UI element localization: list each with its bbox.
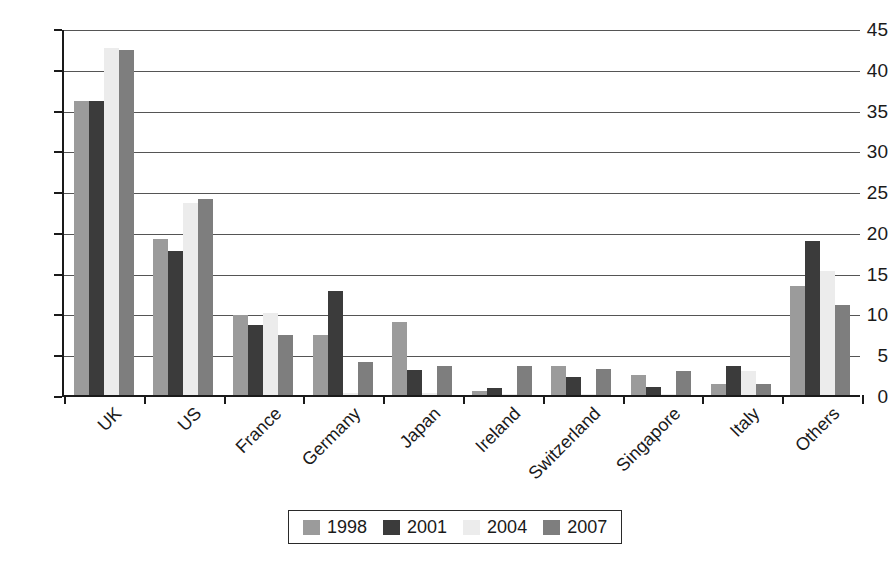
bar-group-ireland bbox=[462, 30, 542, 395]
x-axis-label-text: Germany bbox=[299, 404, 364, 469]
bar-france-1998[interactable] bbox=[233, 315, 248, 395]
y-axis-tick-mark bbox=[54, 192, 62, 194]
x-axis-label-text: France bbox=[232, 404, 284, 456]
x-axis-label-text: Switzerland bbox=[525, 404, 604, 483]
y-axis-tick-mark bbox=[54, 396, 62, 398]
x-axis-tick bbox=[64, 395, 66, 404]
bars-layer bbox=[64, 30, 860, 395]
bar-italy-2004[interactable] bbox=[741, 371, 756, 395]
bar-germany-2001[interactable] bbox=[328, 291, 343, 395]
y-axis-tick-mark bbox=[54, 274, 62, 276]
x-axis-label-text: UK bbox=[94, 404, 124, 434]
x-axis-tick bbox=[144, 395, 146, 404]
y-axis-tick-mark bbox=[54, 233, 62, 235]
y-axis-tick-mark bbox=[54, 111, 62, 113]
legend-item-2004[interactable]: 2004 bbox=[463, 518, 527, 536]
bar-uk-2004[interactable] bbox=[104, 48, 119, 395]
y-axis-tick-mark bbox=[54, 355, 62, 357]
bar-group-others bbox=[780, 30, 860, 395]
plot-area bbox=[62, 30, 860, 397]
bar-group-japan bbox=[382, 30, 462, 395]
bar-switzerland-2001[interactable] bbox=[566, 377, 581, 395]
legend-swatch-1998 bbox=[303, 520, 320, 535]
bar-germany-2004[interactable] bbox=[343, 393, 358, 395]
legend-swatch-2007 bbox=[543, 520, 560, 535]
legend-label-2004: 2004 bbox=[487, 518, 527, 536]
bar-group-italy bbox=[701, 30, 781, 395]
bar-ireland-1998[interactable] bbox=[472, 391, 487, 395]
y-axis-tick-mark bbox=[54, 314, 62, 316]
bar-france-2004[interactable] bbox=[263, 313, 278, 395]
y-axis-tick-mark bbox=[54, 70, 62, 72]
bar-singapore-2001[interactable] bbox=[646, 387, 661, 395]
legend: 1998200120042007 bbox=[288, 510, 622, 544]
legend-label-2007: 2007 bbox=[567, 518, 607, 536]
legend-item-1998[interactable]: 1998 bbox=[303, 518, 367, 536]
x-axis-label-text: Singapore bbox=[612, 404, 683, 475]
bar-group-france bbox=[223, 30, 303, 395]
legend-swatch-2001 bbox=[383, 520, 400, 535]
x-axis-label-text: Others bbox=[792, 404, 843, 455]
bar-ireland-2004[interactable] bbox=[502, 394, 517, 395]
bar-ireland-2001[interactable] bbox=[487, 388, 502, 395]
legend-label-2001: 2001 bbox=[407, 518, 447, 536]
legend-label-1998: 1998 bbox=[327, 518, 367, 536]
bar-singapore-2004[interactable] bbox=[661, 394, 676, 395]
x-axis-tick bbox=[224, 395, 226, 404]
legend-item-2007[interactable]: 2007 bbox=[543, 518, 607, 536]
bar-group-singapore bbox=[621, 30, 701, 395]
bar-group-us bbox=[144, 30, 224, 395]
bar-switzerland-2004[interactable] bbox=[581, 394, 596, 395]
bar-group-uk bbox=[64, 30, 144, 395]
bar-japan-2001[interactable] bbox=[407, 370, 422, 395]
bar-us-2004[interactable] bbox=[183, 203, 198, 395]
bar-japan-2004[interactable] bbox=[422, 393, 437, 395]
bar-others-2004[interactable] bbox=[820, 271, 835, 395]
bar-uk-2001[interactable] bbox=[89, 101, 104, 395]
bar-france-2001[interactable] bbox=[248, 325, 263, 395]
bar-others-2007[interactable] bbox=[835, 305, 850, 395]
x-axis-labels: UKUSFranceGermanyJapanIrelandSwitzerland… bbox=[62, 404, 860, 499]
y-axis-tick-mark bbox=[54, 151, 62, 153]
bar-us-2007[interactable] bbox=[198, 199, 213, 395]
y-axis-tick-mark bbox=[54, 29, 62, 31]
bar-us-1998[interactable] bbox=[153, 239, 168, 395]
bar-chart: 051015202530354045 UKUSFranceGermanyJapa… bbox=[0, 0, 888, 577]
bar-group-switzerland bbox=[542, 30, 622, 395]
bar-group-germany bbox=[303, 30, 383, 395]
bar-others-1998[interactable] bbox=[790, 286, 805, 395]
x-axis-label-text: Japan bbox=[396, 404, 443, 451]
x-axis-label-text: Italy bbox=[727, 404, 763, 440]
bar-uk-1998[interactable] bbox=[74, 101, 89, 395]
legend-item-2001[interactable]: 2001 bbox=[383, 518, 447, 536]
x-axis-label-text: US bbox=[174, 404, 204, 434]
bar-us-2001[interactable] bbox=[168, 251, 183, 395]
bar-uk-2007[interactable] bbox=[119, 50, 134, 395]
legend-swatch-2004 bbox=[463, 520, 480, 535]
bar-others-2001[interactable] bbox=[805, 241, 820, 395]
x-axis-label-text: Ireland bbox=[472, 404, 524, 456]
